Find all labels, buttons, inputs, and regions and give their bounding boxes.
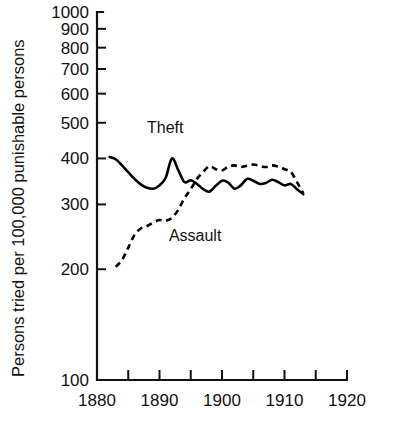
y-tick-label-300: 300 — [61, 195, 89, 214]
y-tick-label-400: 400 — [61, 149, 89, 168]
y-axis-title: Persons tried per 100,000 punishable per… — [9, 39, 27, 377]
y-tick-label-100: 100 — [61, 371, 89, 390]
y-tick-label-800: 800 — [61, 39, 89, 58]
y-tick-label-500: 500 — [61, 114, 89, 133]
y-tick-label-200: 200 — [61, 260, 89, 279]
x-tick-label-1920: 1920 — [328, 391, 366, 410]
series-line-theft — [110, 157, 304, 194]
x-tick-label-1880: 1880 — [78, 391, 116, 410]
x-tick-label-1900: 1900 — [203, 391, 241, 410]
y-axis-tick-labels: 1000900800700600500400300200100 — [51, 3, 89, 390]
series-label-assault: Assault — [169, 227, 222, 244]
x-axis-tick-labels: 18801890190019101920 — [78, 391, 366, 410]
series-label-theft: Theft — [147, 119, 184, 136]
x-axis-ticks — [128, 370, 347, 380]
y-tick-label-600: 600 — [61, 85, 89, 104]
y-axis-ticks — [97, 29, 106, 269]
y-tick-label-700: 700 — [61, 60, 89, 79]
x-tick-label-1910: 1910 — [266, 391, 304, 410]
crime-rate-line-chart: Persons tried per 100,000 punishable per… — [0, 0, 400, 426]
axis-frame — [97, 12, 347, 380]
chart-figure: Persons tried per 100,000 punishable per… — [0, 0, 400, 426]
y-tick-label-900: 900 — [61, 20, 89, 39]
x-tick-label-1890: 1890 — [141, 391, 179, 410]
